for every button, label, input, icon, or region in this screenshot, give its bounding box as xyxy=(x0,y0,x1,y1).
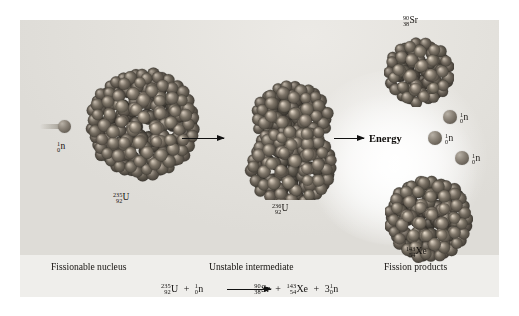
emitted-neutron-2-label: 1 0 n xyxy=(445,133,453,145)
equation-yields-arrow xyxy=(227,289,271,290)
sr90-numbers: 90 38 xyxy=(403,15,409,27)
equation-reactant-1-numbers: 235 92 xyxy=(161,283,171,296)
incoming-neutron-label: 1 0 n xyxy=(57,141,65,153)
arrow-fission xyxy=(334,138,364,139)
equation-product-2-numbers: 143 54 xyxy=(287,283,297,296)
equation-product-2-symbol: Xe xyxy=(296,284,308,294)
incoming-neutron xyxy=(58,120,71,133)
xe143-label: 143 54 Xe xyxy=(406,246,427,258)
fission-diagram: 1 0 n 235 92 U 236 92 U Energy 90 38 Sr xyxy=(0,0,519,316)
emitted-neutron-3 xyxy=(455,151,469,165)
nucleus-xe143 xyxy=(385,175,473,263)
equation-product-3-symbol: n xyxy=(333,284,338,294)
equation-reactant-1-symbol: U xyxy=(171,284,178,294)
nucleus-u235 xyxy=(84,65,202,183)
emitted-neutron-2 xyxy=(428,131,442,145)
emitted-neutron-1 xyxy=(443,110,457,124)
nucleus-sr90 xyxy=(384,37,454,107)
emitted-neutron-3-label: 1 0 n xyxy=(472,153,480,165)
emitted-neutron-1-label: 1 0 n xyxy=(460,112,468,124)
u235-numbers: 235 92 xyxy=(113,192,122,204)
equation-reactant-2-symbol: n xyxy=(198,284,203,294)
arrow-capture xyxy=(182,138,224,139)
u235-label: 235 92 U xyxy=(113,192,129,204)
equation-plus-2: + xyxy=(272,284,284,294)
caption-unstable-intermediate: Unstable intermediate xyxy=(209,262,293,272)
sr90-label: 90 38 Sr xyxy=(403,15,418,27)
u236-label: 236 92 U xyxy=(272,203,288,215)
equation-plus-3: + xyxy=(311,284,323,294)
xe143-numbers: 143 54 xyxy=(406,246,415,258)
caption-fission-products: Fission products xyxy=(384,262,447,272)
caption-fissionable-nucleus: Fissionable nucleus xyxy=(51,262,126,272)
u236-numbers: 236 92 xyxy=(272,203,281,215)
equation-plus-1: + xyxy=(181,284,193,294)
nucleus-u236 xyxy=(243,78,341,200)
energy-label: Energy xyxy=(369,133,402,144)
